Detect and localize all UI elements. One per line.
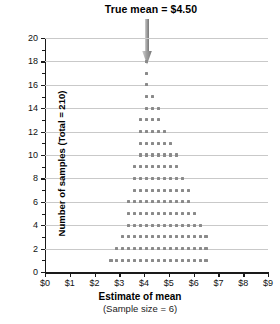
- y-tick-minor: [42, 190, 45, 191]
- data-dot: [151, 259, 154, 262]
- data-dot: [187, 189, 190, 192]
- data-dot: [139, 247, 142, 250]
- gridline: [45, 38, 268, 39]
- data-dot: [145, 200, 148, 203]
- data-dot: [157, 153, 160, 156]
- data-dot: [151, 95, 154, 98]
- data-dot: [199, 224, 202, 227]
- y-tick: [41, 85, 45, 86]
- data-dot: [163, 165, 166, 168]
- data-dot: [157, 142, 160, 145]
- data-dot: [163, 153, 166, 156]
- data-dot: [139, 189, 142, 192]
- data-dot: [181, 200, 184, 203]
- x-tick-label: $8: [230, 279, 256, 288]
- y-tick-minor: [42, 97, 45, 98]
- data-dot: [145, 107, 148, 110]
- data-dot: [204, 235, 207, 238]
- data-dot: [193, 235, 196, 238]
- y-axis-title: Number of samples (Total = 210): [56, 54, 67, 274]
- data-dot: [145, 247, 148, 250]
- x-tick: [218, 272, 219, 277]
- y-tick-label: 12: [12, 128, 38, 137]
- x-tick-label: $7: [205, 279, 231, 288]
- data-dot: [121, 235, 124, 238]
- data-dot: [145, 118, 148, 121]
- x-tick: [243, 272, 244, 277]
- data-dot: [169, 165, 172, 168]
- data-dot: [175, 153, 178, 156]
- data-dot: [163, 212, 166, 215]
- gridline: [45, 85, 268, 86]
- y-tick-minor: [42, 260, 45, 261]
- x-tick: [45, 272, 46, 277]
- data-dot: [133, 224, 136, 227]
- y-tick-label: 10: [12, 151, 38, 160]
- data-dot: [181, 212, 184, 215]
- x-tick: [144, 272, 145, 277]
- data-dot: [145, 142, 148, 145]
- data-dot: [204, 247, 207, 250]
- data-dot: [151, 189, 154, 192]
- data-dot: [181, 189, 184, 192]
- data-dot: [199, 235, 202, 238]
- x-axis-title: Estimate of mean: [0, 291, 280, 302]
- data-dot: [145, 235, 148, 238]
- data-dot: [139, 118, 142, 121]
- data-dot: [133, 259, 136, 262]
- data-dot: [145, 83, 148, 86]
- data-dot: [193, 212, 196, 215]
- y-tick: [41, 249, 45, 250]
- data-dot: [151, 224, 154, 227]
- data-dot: [139, 259, 142, 262]
- data-dot: [139, 142, 142, 145]
- data-dot: [187, 224, 190, 227]
- data-dot: [157, 224, 160, 227]
- data-dot: [169, 247, 172, 250]
- data-dot: [139, 212, 142, 215]
- data-dot: [193, 224, 196, 227]
- data-dot: [145, 224, 148, 227]
- x-tick-label: $3: [106, 279, 132, 288]
- data-dot: [187, 259, 190, 262]
- data-dot: [163, 177, 166, 180]
- x-axis-subtitle: (Sample size = 6): [0, 303, 280, 314]
- data-dot: [181, 259, 184, 262]
- data-dot: [151, 235, 154, 238]
- y-tick-label: 2: [12, 245, 38, 254]
- y-tick-label: 8: [12, 174, 38, 183]
- data-dot: [169, 177, 172, 180]
- data-dot: [169, 235, 172, 238]
- data-dot: [133, 177, 136, 180]
- data-dot: [157, 247, 160, 250]
- dot-plot-figure: True mean = $4.50 Number of samples (Tot…: [0, 0, 280, 324]
- y-tick-minor: [42, 50, 45, 51]
- data-dot: [169, 200, 172, 203]
- x-tick: [119, 272, 120, 277]
- data-dot: [175, 259, 178, 262]
- data-dot: [145, 212, 148, 215]
- x-tick-label: $2: [82, 279, 108, 288]
- plot-area: Number of samples (Total = 210): [45, 38, 268, 272]
- data-dot: [115, 247, 118, 250]
- x-tick-label: $0: [32, 279, 58, 288]
- data-dot: [169, 212, 172, 215]
- data-dot: [175, 189, 178, 192]
- data-dot: [145, 189, 148, 192]
- y-tick-minor: [42, 73, 45, 74]
- y-tick-minor: [42, 214, 45, 215]
- x-tick: [194, 272, 195, 277]
- data-dot: [175, 235, 178, 238]
- data-dot: [145, 165, 148, 168]
- data-dot: [163, 189, 166, 192]
- y-tick: [41, 61, 45, 62]
- data-dot: [133, 189, 136, 192]
- data-dot: [139, 177, 142, 180]
- data-dot: [127, 235, 130, 238]
- y-tick: [41, 178, 45, 179]
- data-dot: [204, 259, 207, 262]
- data-dot: [151, 107, 154, 110]
- data-dot: [169, 189, 172, 192]
- y-tick-minor: [42, 120, 45, 121]
- data-dot: [157, 130, 160, 133]
